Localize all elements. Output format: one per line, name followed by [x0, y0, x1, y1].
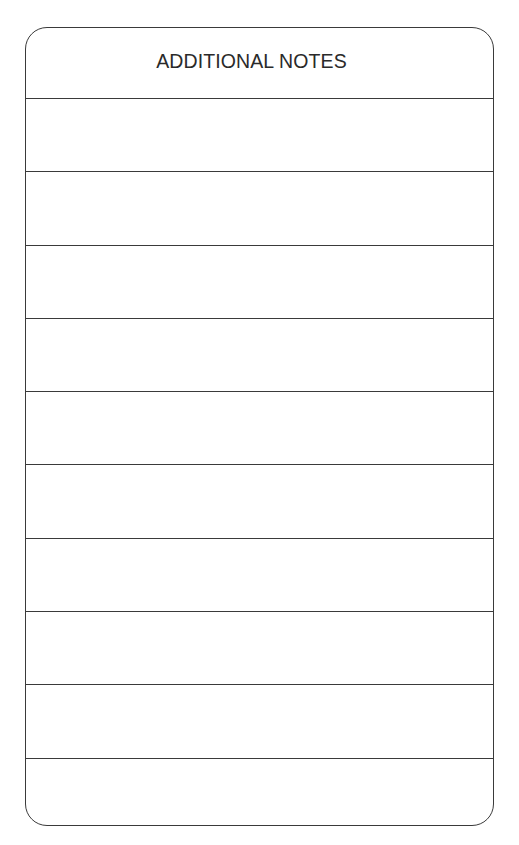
note-line-1[interactable] [26, 99, 493, 172]
note-line-7[interactable] [26, 539, 493, 612]
notes-header: ADDITIONAL NOTES [26, 28, 493, 99]
note-line-5[interactable] [26, 392, 493, 465]
notes-title: ADDITIONAL NOTES [156, 50, 347, 73]
note-line-6[interactable] [26, 465, 493, 538]
note-line-3[interactable] [26, 246, 493, 319]
note-line-10[interactable] [26, 759, 493, 826]
note-line-9[interactable] [26, 685, 493, 758]
note-line-2[interactable] [26, 172, 493, 245]
note-line-8[interactable] [26, 612, 493, 685]
note-line-4[interactable] [26, 319, 493, 392]
notes-card: ADDITIONAL NOTES [25, 27, 494, 826]
